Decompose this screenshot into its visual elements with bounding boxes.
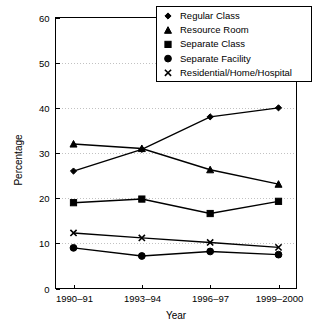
legend-marker-square xyxy=(165,41,171,47)
legend-label: Residential/Home/Hospital xyxy=(180,67,292,78)
series-line xyxy=(74,108,279,171)
data-point-marker xyxy=(139,196,145,202)
x-tick-label: 1990–91 xyxy=(56,293,93,304)
data-point-marker xyxy=(70,244,77,251)
x-axis-title: Year xyxy=(166,310,187,321)
legend-label: Separate Class xyxy=(180,38,245,49)
data-series xyxy=(70,105,282,260)
legend-label: Regular Class xyxy=(180,10,240,21)
y-tick-label: 0 xyxy=(44,284,49,295)
chart-canvas: 0102030405060 1990–911993–941996–971999–… xyxy=(0,0,319,325)
data-point-marker xyxy=(275,198,281,204)
data-point-marker xyxy=(70,200,76,206)
x-axis-ticks: 1990–911993–941996–971999–2000 xyxy=(56,285,303,304)
y-tick-label: 30 xyxy=(39,148,50,159)
data-point-marker xyxy=(138,253,145,260)
y-tick-label: 40 xyxy=(39,103,50,114)
series-line xyxy=(74,233,279,247)
x-tick-label: 1999–2000 xyxy=(256,293,304,304)
series-line xyxy=(74,248,279,256)
series-line xyxy=(74,199,279,213)
y-tick-label: 60 xyxy=(39,13,50,24)
legend-label: Separate Facility xyxy=(180,53,251,64)
line-chart: 0102030405060 1990–911993–941996–971999–… xyxy=(0,0,319,325)
data-point-marker xyxy=(70,168,76,174)
y-axis-ticks: 0102030405060 xyxy=(39,13,60,295)
data-point-marker xyxy=(275,105,281,111)
x-tick-label: 1996–97 xyxy=(192,293,229,304)
grid-lines xyxy=(56,64,297,244)
legend-label: Resource Room xyxy=(180,24,249,35)
legend: Regular ClassResource RoomSeparate Class… xyxy=(157,7,312,82)
y-tick-label: 50 xyxy=(39,58,50,69)
data-point-marker xyxy=(275,251,282,258)
data-point-marker xyxy=(207,248,214,255)
data-point-marker xyxy=(207,210,213,216)
y-tick-label: 20 xyxy=(39,193,50,204)
y-axis-title: Percentage xyxy=(13,134,24,186)
legend-marker-circle xyxy=(165,55,172,62)
y-tick-label: 10 xyxy=(39,238,50,249)
x-tick-label: 1993–94 xyxy=(124,293,161,304)
data-point-marker xyxy=(207,114,213,120)
series-line xyxy=(74,144,279,184)
